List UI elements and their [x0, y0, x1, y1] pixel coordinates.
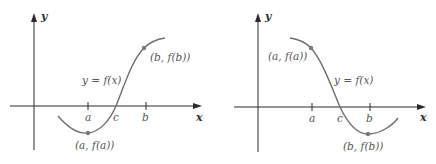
point-a [86, 131, 90, 135]
diagram-canvas: y x a c b (a, f(a)) (b, f(b)) y = f(x) y… [0, 0, 436, 164]
point-b [142, 46, 146, 50]
tick-label-a: a [309, 112, 315, 124]
x-axis-arrow-icon [193, 103, 202, 109]
tick-label-b: b [366, 112, 373, 124]
x-axis-label: x [195, 111, 203, 124]
tick-label-a: a [85, 111, 91, 123]
tick-label-c: c [337, 112, 343, 124]
point-a [309, 46, 313, 50]
y-axis-arrow-icon [31, 13, 37, 22]
point-b-label: (b, f(b)) [150, 51, 190, 63]
tick-label-b: b [142, 111, 149, 123]
x-axis-label: x [419, 111, 427, 124]
y-axis-arrow-icon [255, 13, 261, 22]
panel-left: y x a c b (a, f(a)) (b, f(b)) y = f(x) [10, 10, 203, 151]
y-axis-label: y [264, 10, 273, 23]
y-axis-label: y [40, 10, 49, 23]
point-b-label: (b, f(b)) [343, 140, 383, 152]
point-a-label: (a, f(a)) [268, 50, 307, 62]
x-axis-arrow-icon [417, 104, 426, 110]
tick-label-c: c [113, 111, 119, 123]
function-label: y = f(x) [333, 74, 373, 86]
panel-right: y x a c b (a, f(a)) (b, f(b)) y = f(x) [234, 10, 427, 152]
point-b [366, 132, 370, 136]
point-a-label: (a, f(a)) [75, 139, 114, 151]
function-label: y = f(x) [81, 74, 121, 86]
